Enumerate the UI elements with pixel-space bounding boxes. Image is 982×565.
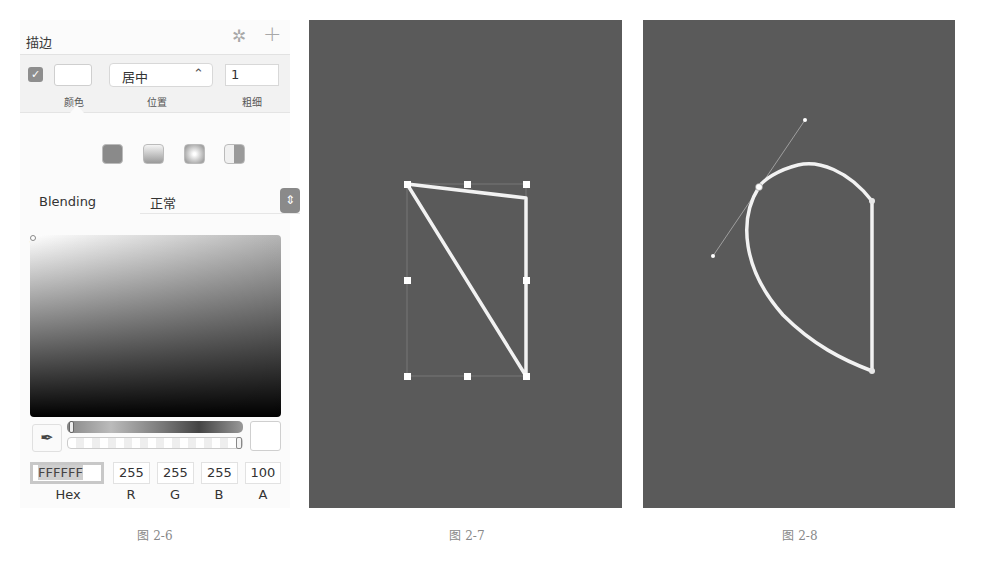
red-input[interactable]: 255 xyxy=(113,462,150,484)
blue-label: B xyxy=(211,487,227,502)
alpha-slider-knob[interactable] xyxy=(236,437,242,449)
alpha-input[interactable]: 100 xyxy=(245,462,281,484)
eyedropper-icon[interactable]: ✒ xyxy=(32,424,62,452)
hex-value: FFFFFF xyxy=(38,465,83,480)
blending-label: Blending xyxy=(39,194,96,209)
gear-icon[interactable]: ✲ xyxy=(232,26,246,46)
hex-label: Hex xyxy=(48,487,88,502)
alpha-slider[interactable] xyxy=(67,437,243,449)
stroke-thickness-label: 粗细 xyxy=(242,94,262,109)
stroke-position-select[interactable]: 居中 ⌃ xyxy=(109,63,213,87)
hue-slider[interactable] xyxy=(67,421,243,433)
curved-path-drawing xyxy=(643,20,955,508)
alpha-label: A xyxy=(255,487,271,502)
plus-icon[interactable]: + xyxy=(263,21,281,46)
green-input[interactable]: 255 xyxy=(157,462,194,484)
fill-type-angular-gradient-button[interactable] xyxy=(224,144,245,164)
red-label: R xyxy=(123,487,139,502)
current-color-swatch xyxy=(250,421,281,451)
green-label: G xyxy=(167,487,183,502)
figure-caption-2-6: 图 2-6 xyxy=(105,526,205,543)
fill-type-solid-button[interactable] xyxy=(102,144,123,164)
popover-notch xyxy=(70,105,84,113)
hex-input[interactable]: FFFFFF xyxy=(30,462,104,484)
figure-caption-2-7: 图 2-7 xyxy=(417,526,517,543)
saturation-brightness-field[interactable] xyxy=(30,235,281,417)
fill-type-linear-gradient-button[interactable] xyxy=(143,144,164,164)
hue-slider-knob[interactable] xyxy=(69,421,74,433)
stroke-section-title: 描边 xyxy=(26,32,52,51)
blending-select[interactable]: 正常 ⇕ xyxy=(140,188,300,214)
fill-type-radial-gradient-button[interactable] xyxy=(184,144,205,164)
stroke-color-well[interactable] xyxy=(54,64,92,86)
stroke-position-label: 位置 xyxy=(147,94,167,109)
stroke-row: ✓ 居中 ⌃ 1 颜色 位置 粗细 xyxy=(20,55,290,113)
color-field-handle[interactable] xyxy=(30,235,36,241)
stroke-position-value: 居中 xyxy=(122,70,148,85)
straight-path-drawing xyxy=(309,20,622,508)
chevron-updown-icon[interactable]: ⇕ xyxy=(280,188,300,213)
stroke-thickness-input[interactable]: 1 xyxy=(225,64,279,86)
figure-caption-2-8: 图 2-8 xyxy=(750,526,850,543)
canvas-figure-2-7[interactable] xyxy=(309,20,622,508)
chevron-updown-icon: ⌃ xyxy=(193,66,204,81)
blue-input[interactable]: 255 xyxy=(201,462,238,484)
stroke-enabled-checkbox[interactable]: ✓ xyxy=(28,67,43,82)
blending-value: 正常 xyxy=(150,196,176,211)
canvas-figure-2-8[interactable] xyxy=(643,20,955,508)
